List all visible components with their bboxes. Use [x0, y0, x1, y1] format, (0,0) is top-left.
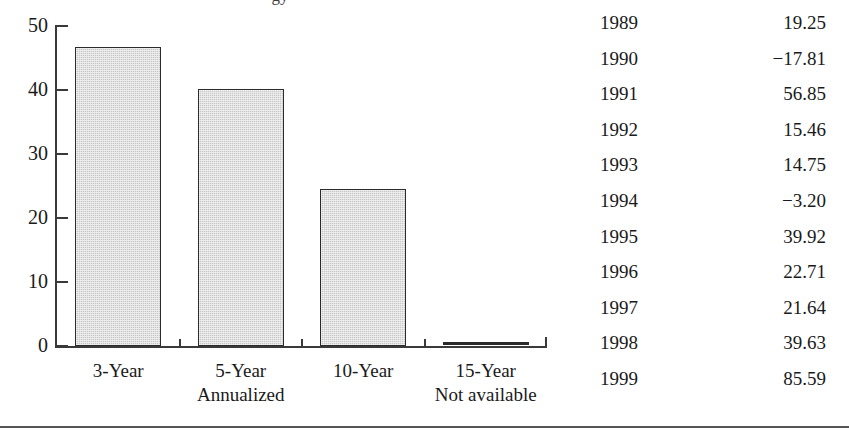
y-axis-tick-label: 0 [0, 335, 48, 355]
x-axis-sublabel-15-year: Not available [401, 384, 571, 406]
x-axis-tick [424, 339, 426, 347]
y-axis-tick [57, 217, 68, 219]
table-cell-year: 1999 [600, 368, 696, 390]
table-cell-value: −17.81 [696, 48, 826, 70]
table-cell-year: 1998 [600, 332, 696, 354]
bar-3-year [75, 47, 161, 346]
table-row: 199839.63 [600, 332, 849, 368]
y-axis-tick [57, 25, 68, 27]
bar-chart: 01020304050 3-Year5-YearAnnualized10-Yea… [0, 0, 580, 420]
x-axis-tick [179, 339, 181, 347]
y-axis-tick-label: 30 [0, 143, 48, 163]
table-row: 199215.46 [600, 119, 849, 155]
table-cell-year: 1991 [600, 83, 696, 105]
y-axis-tick-label: 20 [0, 207, 48, 227]
table-cell-value: 39.92 [696, 226, 826, 248]
annual-returns-table: 198919.251990−17.81199156.85199215.46199… [600, 12, 849, 404]
bar-10-year [320, 189, 406, 346]
table-cell-value: 19.25 [696, 12, 826, 34]
y-axis-tick [57, 281, 68, 283]
table-cell-year: 1990 [600, 48, 696, 70]
table-row: 1994−3.20 [600, 190, 849, 226]
y-axis-line [55, 25, 57, 347]
table-row: 199622.71 [600, 261, 849, 297]
table-cell-value: 15.46 [696, 119, 826, 141]
x-axis-tick [301, 339, 303, 347]
y-axis-tick [57, 345, 68, 347]
x-axis-sublabel-5-year: Annualized [156, 384, 326, 406]
y-axis-tick [57, 89, 68, 91]
table-row: 199314.75 [600, 154, 849, 190]
table-cell-value: −3.20 [696, 190, 826, 212]
table-cell-value: 22.71 [696, 261, 826, 283]
table-cell-value: 39.63 [696, 332, 826, 354]
y-axis-tick-label: 40 [0, 79, 48, 99]
table-cell-year: 1997 [600, 297, 696, 319]
table-cell-year: 1993 [600, 154, 696, 176]
table-row: 199721.64 [600, 297, 849, 333]
table-cell-value: 85.59 [696, 368, 826, 390]
table-cell-year: 1996 [600, 261, 696, 283]
y-axis-tick-label: 50 [0, 15, 48, 35]
x-axis-end-tick [545, 337, 547, 347]
table-cell-year: 1994 [600, 190, 696, 212]
table-cell-year: 1992 [600, 119, 696, 141]
figure-page: gy 01020304050 3-Year5-YearAnnualized10-… [0, 0, 849, 448]
bottom-divider [0, 426, 849, 428]
y-axis-tick-label: 10 [0, 271, 48, 291]
y-axis-tick [57, 153, 68, 155]
table-row: 198919.25 [600, 12, 849, 48]
bar-5-year [198, 89, 284, 346]
bar-15-year [443, 342, 529, 345]
table-cell-value: 14.75 [696, 154, 826, 176]
table-row: 199156.85 [600, 83, 849, 119]
table-row: 1990−17.81 [600, 48, 849, 84]
table-row: 199539.92 [600, 226, 849, 262]
table-cell-value: 21.64 [696, 297, 826, 319]
table-row: 199985.59 [600, 368, 849, 404]
x-axis-label-15-year: 15-Year [406, 360, 566, 382]
table-cell-year: 1995 [600, 226, 696, 248]
table-cell-year: 1989 [600, 12, 696, 34]
table-cell-value: 56.85 [696, 83, 826, 105]
